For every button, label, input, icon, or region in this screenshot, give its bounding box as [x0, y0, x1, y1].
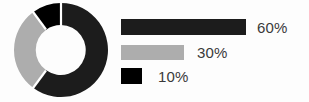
- legend-item-30[interactable]: 30%: [121, 44, 228, 60]
- donut-chart: [13, 2, 109, 98]
- donut-chart-svg: [13, 2, 109, 98]
- legend-label-10: 10%: [158, 69, 189, 84]
- legend-swatch-10: [121, 68, 142, 84]
- legend-label-30: 30%: [197, 45, 228, 60]
- chart-figure: 60% 30% 10%: [0, 0, 309, 102]
- legend-swatch-30: [121, 45, 184, 60]
- legend-swatch-60: [121, 19, 246, 35]
- legend-item-10[interactable]: 10%: [121, 68, 189, 84]
- chart-legend: 60% 30% 10%: [121, 0, 309, 102]
- legend-item-60[interactable]: 60%: [121, 19, 288, 35]
- legend-label-60: 60%: [257, 20, 288, 35]
